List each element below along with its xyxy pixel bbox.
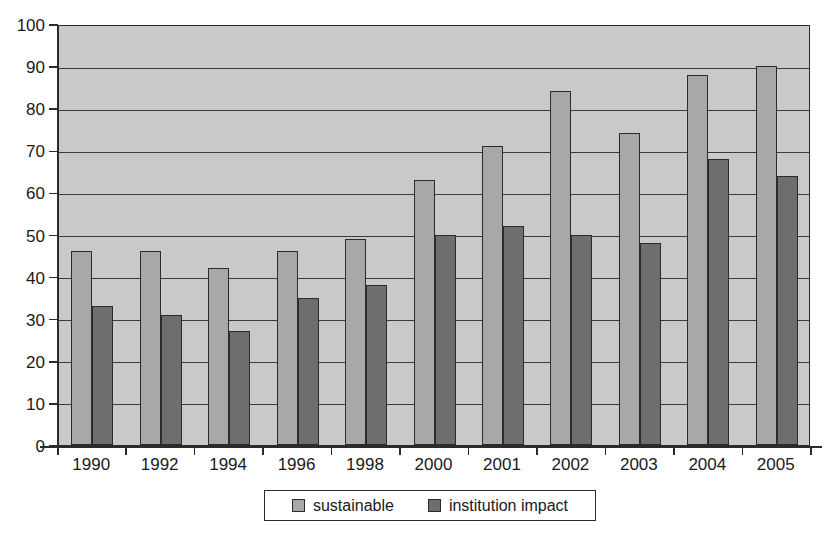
bar-sustainable-2001 — [482, 146, 503, 445]
x-axis-tick-mark — [673, 446, 675, 455]
x-axis-tick-label: 2005 — [757, 455, 795, 475]
x-axis-tick-mark — [605, 446, 607, 455]
bar-institution-impact-2000 — [435, 235, 456, 446]
y-axis-tick-mark — [49, 277, 58, 279]
bar-sustainable-2005 — [756, 66, 777, 445]
bar-sustainable-2000 — [414, 180, 435, 445]
x-axis-tick-mark — [399, 446, 401, 455]
x-axis-tick-label: 2004 — [688, 455, 726, 475]
legend-item-institution-impact: institution impact — [428, 497, 568, 515]
bar-sustainable-1990 — [71, 251, 92, 445]
x-axis-tick-label: 1992 — [141, 455, 179, 475]
bar-institution-impact-1998 — [366, 285, 387, 445]
x-axis-tick-mark — [331, 446, 333, 455]
bar-sustainable-1998 — [345, 239, 366, 445]
bar-chart: 0102030405060708090100 19901992199419961… — [0, 0, 827, 540]
bar-sustainable-1994 — [208, 268, 229, 445]
y-axis-tick-label: 70 — [5, 143, 45, 160]
bar-institution-impact-1994 — [229, 331, 250, 445]
bar-sustainable-2003 — [619, 133, 640, 445]
y-axis-tick-label: 10 — [5, 395, 45, 412]
x-axis-tick-label: 2000 — [415, 455, 453, 475]
legend-label-institution-impact: institution impact — [449, 497, 568, 515]
bar-institution-impact-2001 — [503, 226, 524, 445]
x-axis-tick-label: 2002 — [551, 455, 589, 475]
bar-sustainable-1996 — [277, 251, 298, 445]
legend-item-sustainable: sustainable — [292, 497, 394, 515]
bar-institution-impact-2002 — [571, 235, 592, 446]
plot-area — [57, 25, 810, 446]
bar-institution-impact-2004 — [708, 159, 729, 445]
x-axis-tick-label: 1990 — [72, 455, 110, 475]
y-axis-tick-mark — [49, 319, 58, 321]
x-axis-tick-mark — [742, 446, 744, 455]
y-axis-tick-label: 80 — [5, 101, 45, 118]
y-axis-tick-label: 30 — [5, 311, 45, 328]
chart-legend: sustainable institution impact — [264, 490, 596, 521]
bar-institution-impact-2005 — [777, 176, 798, 445]
y-axis-tick-label: 50 — [5, 227, 45, 244]
bar-institution-impact-2003 — [640, 243, 661, 445]
y-axis-tick-label: 100 — [5, 17, 45, 34]
x-axis-tick-mark — [468, 446, 470, 455]
x-axis-tick-mark — [810, 446, 812, 455]
y-axis-tick-label: 0 — [5, 438, 45, 455]
x-axis-tick-mark — [536, 446, 538, 455]
legend-swatch-icon-institution-impact — [428, 499, 441, 512]
bar-sustainable-2004 — [687, 75, 708, 445]
y-axis-tick-label: 40 — [5, 269, 45, 286]
y-axis-tick-label: 20 — [5, 353, 45, 370]
x-axis-tick-mark — [57, 446, 59, 455]
y-axis-tick-mark — [49, 235, 58, 237]
y-axis-tick-label: 60 — [5, 185, 45, 202]
bar-institution-impact-1996 — [298, 298, 319, 445]
gridline — [58, 68, 809, 69]
y-axis-tick-mark — [49, 361, 58, 363]
bar-institution-impact-1990 — [92, 306, 113, 445]
x-axis-tick-mark — [194, 446, 196, 455]
y-axis-tick-mark — [49, 24, 58, 26]
x-axis-tick-label: 1996 — [278, 455, 316, 475]
legend-label-sustainable: sustainable — [313, 497, 394, 515]
x-axis-tick-label: 2001 — [483, 455, 521, 475]
bar-institution-impact-1992 — [161, 315, 182, 446]
x-axis-tick-mark — [262, 446, 264, 455]
y-axis-tick-mark — [49, 193, 58, 195]
y-axis-tick-mark — [49, 108, 58, 110]
y-axis-tick-labels: 0102030405060708090100 — [0, 0, 45, 540]
y-axis-tick-label: 90 — [5, 59, 45, 76]
y-axis-tick-mark — [49, 403, 58, 405]
bar-sustainable-1992 — [140, 251, 161, 445]
y-axis-tick-mark — [49, 151, 58, 153]
y-axis-tick-mark — [49, 66, 58, 68]
bar-sustainable-2002 — [550, 91, 571, 445]
legend-swatch-icon-sustainable — [292, 499, 305, 512]
x-axis-tick-label: 2003 — [620, 455, 658, 475]
x-axis-line — [40, 446, 822, 448]
x-axis-tick-label: 1994 — [209, 455, 247, 475]
x-axis-tick-label: 1998 — [346, 455, 384, 475]
x-axis-tick-mark — [125, 446, 127, 455]
